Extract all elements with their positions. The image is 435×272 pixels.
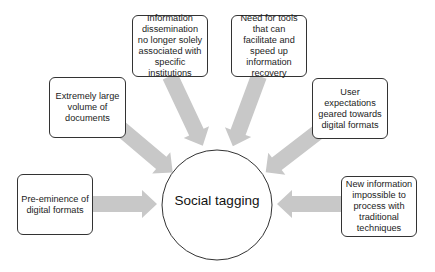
arrow-top-right-icon: [220, 71, 272, 151]
factor-label-expectations: User expectations geared towards digital…: [316, 87, 384, 131]
factor-label-volume: Extremely large volume of documents: [53, 91, 122, 124]
arrow-right-icon: [277, 190, 342, 218]
factor-box-preeminence: Pre-eminence of digital formats: [17, 174, 93, 235]
center-label: Social tagging: [162, 193, 272, 209]
factor-label-preeminence: Pre-eminence of digital formats: [21, 194, 89, 216]
factor-label-new-info: New information impossible to process wi…: [345, 179, 413, 234]
factor-box-expectations: User expectations geared towards digital…: [312, 78, 388, 139]
factor-box-tools: Need for tools that can facilitate and s…: [231, 15, 307, 77]
arrow-left-icon: [93, 190, 157, 218]
factor-label-dissemination: Information dissemination no longer sole…: [136, 13, 204, 79]
social-tagging-diagram: Social tagging Information dissemination…: [0, 0, 435, 272]
factor-box-volume: Extremely large volume of documents: [49, 77, 126, 138]
arrow-top-left-icon: [157, 70, 215, 152]
factor-box-dissemination: Information dissemination no longer sole…: [132, 15, 208, 77]
factor-box-new-info: New information impossible to process wi…: [341, 176, 417, 237]
factor-label-tools: Need for tools that can facilitate and s…: [235, 13, 303, 79]
